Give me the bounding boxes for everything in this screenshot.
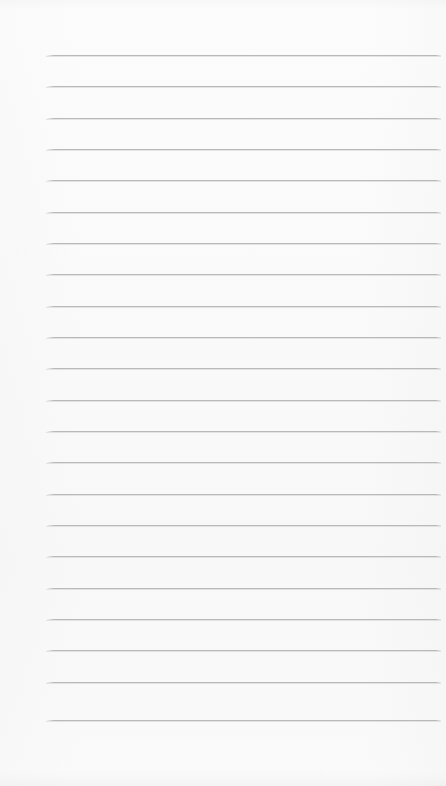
rule-line (46, 118, 441, 119)
rule-line (46, 86, 441, 87)
rule-line (46, 588, 441, 589)
rule-line (46, 556, 441, 557)
rule-line (46, 494, 441, 495)
rule-line (46, 212, 441, 213)
rule-line (46, 180, 441, 181)
rule-line (46, 274, 441, 275)
rule-line (46, 650, 441, 651)
lined-paper-page (0, 0, 446, 786)
rule-line (46, 55, 441, 56)
rule-line (46, 462, 441, 463)
rule-line (46, 368, 441, 369)
rule-line (46, 243, 441, 244)
rule-line (46, 306, 441, 307)
rule-line (46, 400, 441, 401)
rule-line (46, 431, 441, 432)
rule-line (46, 149, 441, 150)
ruled-lines-layer (0, 0, 446, 786)
rule-line (46, 619, 441, 620)
rule-line (46, 337, 441, 338)
rule-line (46, 682, 441, 683)
rule-line (46, 525, 441, 526)
rule-line (46, 720, 441, 721)
